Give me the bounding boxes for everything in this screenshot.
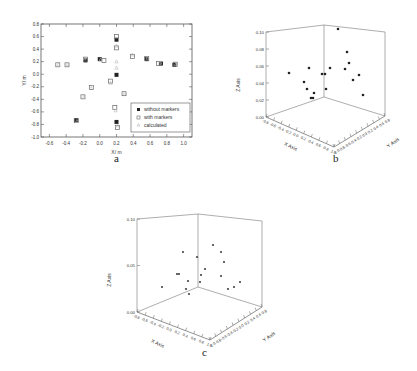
- y-tick-label: 0.0: [33, 72, 40, 77]
- data-point: [187, 280, 189, 282]
- x-tick-label: -0.2: [284, 129, 292, 135]
- caption-c: c: [202, 346, 207, 358]
- legend-entry: calculated: [144, 122, 167, 128]
- y-axis-label: Y Axis: [385, 136, 400, 149]
- x-tick-label: 0.2: [300, 136, 306, 142]
- x-axis-label: X Axis: [283, 141, 299, 153]
- x-tick-label: -0.6: [141, 317, 149, 323]
- data-point: [204, 268, 206, 270]
- data-point: [306, 88, 309, 91]
- point-with-markers: [102, 58, 106, 62]
- z-tick-label: 0.10: [256, 30, 265, 35]
- data-point: [288, 72, 291, 75]
- z-axis-label: Z Axis: [106, 273, 112, 287]
- x-tick-label: -0.6: [46, 141, 54, 146]
- x-tick-label: -0.8: [133, 314, 141, 320]
- y-tick-label: 0.6: [33, 34, 40, 39]
- x-tick-label: 0.4: [308, 139, 314, 145]
- data-point: [344, 68, 347, 71]
- x-tick-label: 0.6: [147, 141, 154, 146]
- data-point: [212, 244, 214, 246]
- x-tick-label: 0.2: [113, 141, 120, 146]
- z-tick-label: 0.05: [127, 263, 136, 268]
- chart-c: 0.000.050.10-0.8-0.6-0.4-0.20.00.20.40.6…: [100, 190, 320, 350]
- data-point: [325, 88, 328, 91]
- y-tick-label: 0.2: [244, 320, 251, 326]
- data-point: [362, 94, 365, 97]
- y-tick-label: 0.2: [33, 59, 40, 64]
- data-point: [188, 293, 190, 295]
- data-point: [233, 286, 235, 288]
- data-point: [220, 275, 222, 277]
- scatter-plot-a: -0.6-0.4-0.20.00.20.40.60.81.0-1.0-0.8-0…: [0, 0, 210, 170]
- x-tick-label: 0.2: [174, 330, 180, 336]
- data-point: [324, 73, 327, 76]
- data-point: [220, 251, 222, 253]
- y-tick-label: 0.8: [261, 309, 268, 315]
- x-tick-label: 0.6: [190, 336, 196, 342]
- data-point: [196, 256, 198, 258]
- z-tick-label: 0.02: [256, 98, 265, 103]
- point-without-markers: [115, 73, 119, 77]
- y-tick-label: -0.2: [31, 84, 39, 89]
- z-tick-label: 0.08: [256, 47, 265, 52]
- point-calculated: [109, 81, 112, 84]
- x-tick-label: 0.4: [182, 333, 188, 339]
- x-tick-label: -0.4: [277, 126, 285, 132]
- x-tick-label: 0.0: [97, 141, 104, 146]
- x-tick-label: 1.0: [180, 141, 187, 146]
- y-tick-label: 0.8: [33, 22, 40, 27]
- y-axis-label: Y Axis: [261, 330, 276, 343]
- y-tick-label: 0.6: [255, 313, 262, 319]
- point-without-markers: [83, 58, 87, 62]
- x-tick-label: -0.2: [79, 141, 87, 146]
- data-point: [178, 273, 180, 275]
- data-point: [348, 62, 351, 65]
- point-without-markers: [115, 120, 119, 124]
- data-point: [176, 273, 178, 275]
- x-tick-label: -0.4: [149, 320, 157, 326]
- point-with-markers: [113, 105, 117, 109]
- x-tick-label: 0.0: [292, 132, 298, 138]
- point-calculated: [115, 66, 118, 69]
- scatter3d-plot-b: 0.000.020.040.060.080.10-0.8-0.6-0.4-0.2…: [210, 0, 417, 170]
- y-tick-label: 0.4: [33, 47, 40, 52]
- x-tick-label: 0.8: [323, 146, 329, 152]
- scatter3d-plot-c: 0.000.050.10-0.8-0.6-0.4-0.20.00.20.40.6…: [100, 190, 320, 350]
- point-calculated: [115, 60, 118, 63]
- z-tick-label: 0.06: [256, 64, 265, 69]
- data-point: [303, 81, 306, 84]
- y-tick-label: -0.8: [31, 122, 39, 127]
- data-point: [200, 274, 202, 276]
- x-tick-label: 0.6: [315, 142, 321, 148]
- data-point: [182, 251, 184, 253]
- caption-a: a: [114, 152, 119, 164]
- data-point: [321, 73, 324, 76]
- y-tick-label: -0.6: [31, 109, 39, 114]
- data-point: [199, 281, 201, 283]
- x-axis-label: X Axis: [150, 338, 166, 350]
- legend-entry: without markers: [144, 106, 180, 112]
- chart-b: 0.000.020.040.060.080.10-0.8-0.6-0.4-0.2…: [210, 0, 417, 170]
- y-axis-label: Y/ m: [21, 75, 27, 85]
- x-tick-label: -0.4: [62, 141, 70, 146]
- data-point: [161, 286, 163, 288]
- x-tick-label: -0.6: [269, 122, 277, 128]
- data-point: [308, 67, 311, 70]
- z-tick-label: 0.04: [256, 81, 265, 86]
- data-point: [239, 281, 241, 283]
- y-tick-label: 0.0: [238, 324, 245, 330]
- data-point: [329, 67, 332, 70]
- data-point: [312, 97, 315, 100]
- y-tick-label: 0.4: [250, 316, 257, 322]
- y-tick-label: 0.8: [384, 118, 391, 124]
- x-tick-label: 0.8: [164, 141, 171, 146]
- chart-a: -0.6-0.4-0.20.00.20.40.60.81.0-1.0-0.8-0…: [0, 0, 210, 170]
- x-tick-label: 0.0: [166, 327, 172, 333]
- x-tick-label: -0.8: [262, 119, 270, 125]
- data-point: [313, 92, 316, 95]
- data-point: [227, 288, 229, 290]
- legend-entry: with markers: [144, 114, 173, 120]
- data-point: [358, 74, 361, 77]
- x-tick-label: 0.4: [130, 141, 137, 146]
